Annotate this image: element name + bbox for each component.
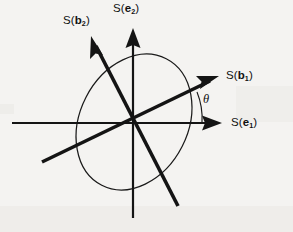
label-Sb1-symbol: b: [238, 69, 245, 81]
vector-Sb1: [42, 76, 219, 162]
label-Sb1: S(b1): [226, 70, 253, 82]
label-Se1-subscript: 1: [249, 121, 253, 130]
theta-arc: [197, 92, 202, 123]
label-Se1-suffix: ): [253, 116, 257, 128]
label-Se2: S(e2): [113, 3, 139, 15]
label-Sb2-suffix: ): [86, 14, 90, 26]
label-Sb1-suffix: ): [249, 69, 253, 81]
label-Se1-prefix: S(: [231, 116, 243, 128]
axis-horizontal-Se1: [12, 116, 222, 131]
label-Se2-suffix: ): [135, 2, 139, 14]
label-Se2-prefix: S(: [113, 2, 125, 14]
label-Sb2-prefix: S(: [63, 14, 75, 26]
label-theta: θ: [203, 93, 209, 106]
label-Sb2-symbol: b: [75, 14, 82, 26]
label-Sb1-subscript: 1: [245, 74, 249, 83]
label-Se2-subscript: 2: [131, 7, 135, 16]
label-Sb2: S(b2): [63, 15, 90, 27]
label-Sb2-subscript: 2: [82, 19, 86, 28]
figure-diagram: S(b2) S(e2) S(b1) S(e1) θ: [0, 0, 293, 232]
label-Sb1-prefix: S(: [226, 69, 238, 81]
label-Se1: S(e1): [231, 117, 257, 129]
